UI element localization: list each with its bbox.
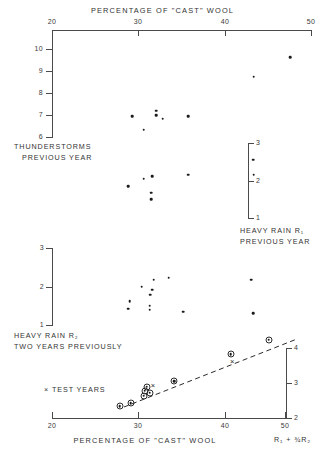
figure-multi-panel-scatter: PERCENTAGE OF "CAST" WOOL 20 30 40 50 10…: [0, 0, 325, 454]
data-point: [268, 339, 271, 342]
data-point: [129, 402, 132, 405]
data-point: [142, 395, 145, 398]
data-point: [149, 392, 152, 395]
data-point: [173, 380, 176, 383]
data-point: [229, 353, 232, 356]
data-point: [118, 405, 121, 408]
trend-line: [0, 0, 325, 454]
test-year-marker: ×: [229, 359, 235, 365]
test-year-marker: ×: [150, 383, 156, 389]
data-point: [146, 385, 149, 388]
